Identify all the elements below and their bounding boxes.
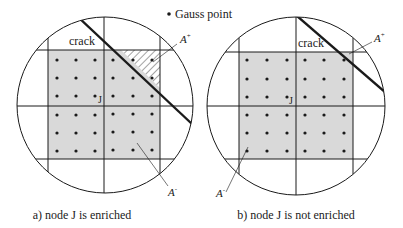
a-plus-label: A+: [373, 31, 385, 44]
caption-a: a) node J is enriched: [33, 208, 132, 222]
node-j-label: J: [98, 94, 102, 105]
crack-label: crack: [298, 36, 324, 50]
a-minus-label: A-: [215, 186, 226, 199]
panel-a: crack J A+ A- a) node J is enriched: [0, 0, 210, 222]
a-minus-leader: [226, 147, 248, 192]
gauss-point-legend-icon: [167, 12, 171, 16]
legend: Gauss point: [167, 7, 232, 21]
diagram-canvas: Gauss point: [0, 0, 403, 228]
crack-label: crack: [69, 34, 95, 48]
node-j-label: J: [289, 95, 293, 106]
a-plus-label: A+: [179, 32, 191, 45]
a-minus-label: A-: [167, 185, 178, 198]
legend-label: Gauss point: [175, 7, 233, 21]
panel-b: crack J A+ A- b) node J is not enriched: [200, 0, 403, 222]
caption-b: b) node J is not enriched: [237, 208, 355, 222]
